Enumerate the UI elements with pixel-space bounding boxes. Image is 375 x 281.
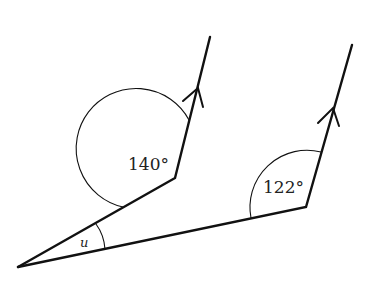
lower-path [18, 45, 352, 267]
arc-140 [76, 88, 189, 207]
lower-arrow-icon [318, 108, 339, 126]
arc-u [96, 224, 105, 249]
angle-label-140: 140° [128, 154, 169, 174]
angle-label-u: u [80, 235, 88, 250]
angle-label-122: 122° [263, 177, 304, 197]
angle-diagram: 140° 122° u [0, 0, 375, 281]
